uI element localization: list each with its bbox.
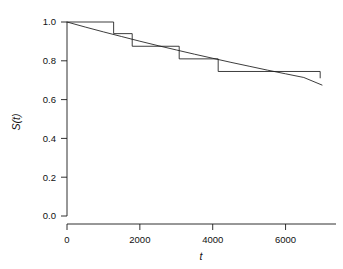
chart-canvas: 0.00.20.40.60.81.0 0200040006000 t S(t) <box>0 0 343 269</box>
x-tick-label: 0 <box>64 234 69 245</box>
y-axis-title: S(t) <box>10 114 22 131</box>
y-tick-label: 1.0 <box>43 16 56 27</box>
y-tick-label: 0.8 <box>43 55 56 66</box>
y-tick-label: 0.0 <box>43 210 56 221</box>
fitted-survival-curve <box>67 22 322 85</box>
survival-plot-figure: 0.00.20.40.60.81.0 0200040006000 t S(t) <box>0 0 343 269</box>
y-tick-label: 0.2 <box>43 172 56 183</box>
kaplan-meier-step-curve <box>67 22 320 78</box>
x-tick-label: 2000 <box>129 234 150 245</box>
x-axis-ticks: 0200040006000 <box>64 224 296 245</box>
x-tick-label: 4000 <box>202 234 223 245</box>
y-tick-label: 0.4 <box>43 133 56 144</box>
y-tick-label: 0.6 <box>43 94 56 105</box>
x-tick-label: 6000 <box>275 234 296 245</box>
x-axis-title: t <box>200 250 204 262</box>
y-axis-ticks: 0.00.20.40.60.81.0 <box>43 16 67 221</box>
